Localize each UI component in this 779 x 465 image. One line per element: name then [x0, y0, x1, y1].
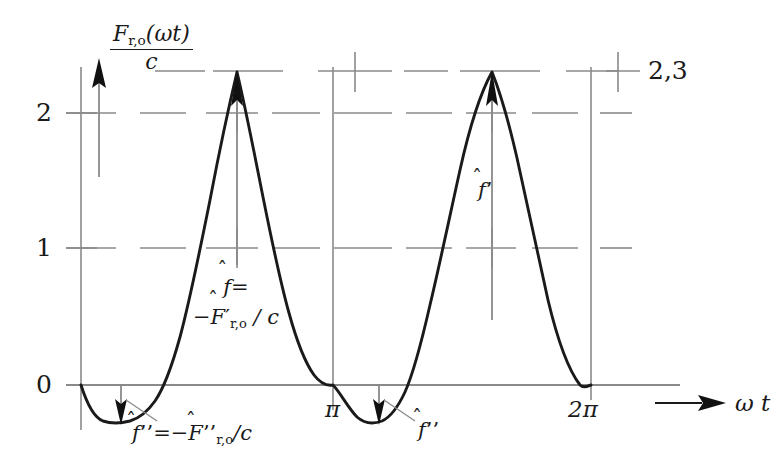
y-axis-title-numerator-arg: (ωt): [146, 21, 190, 46]
annotation-trough-first-equals: =: [153, 421, 171, 445]
x-tick-label-2pi: 2π: [568, 398, 598, 421]
y-axis-title-numerator: F: [113, 21, 128, 46]
annotation-trough-first-Fprimes: ’’: [203, 421, 216, 445]
annotation-trough-first-tail: /c: [233, 421, 252, 445]
y-tick-label-2: 2: [36, 100, 52, 125]
figure-container: Fr,o(ωt) c 2 1 0 2,3 π 2π ω t f̂= −F̂′r,…: [0, 0, 779, 465]
annotation-peak-second-prime: ’: [486, 178, 493, 202]
y-axis-arrow: [92, 58, 106, 177]
trough-arrow-2: [373, 385, 415, 425]
annotation-trough-first-minus: −: [171, 421, 189, 445]
annotation-peak-first: f̂= −F̂′r,o / c: [193, 272, 279, 334]
annotation-peak-first-minus: −: [193, 305, 211, 329]
y-axis-title-denominator: c: [110, 50, 193, 73]
annotation-peak-first-equals: =: [231, 275, 249, 299]
annotation-trough-second: f̂’’: [418, 420, 439, 441]
y-axis-title: Fr,o(ωt) c: [110, 23, 193, 73]
annotation-peak-first-tail: / c: [253, 305, 279, 329]
annotation-peak-second: f̂’: [478, 180, 492, 201]
annotation-trough-second-primes: ’’: [426, 418, 439, 442]
annotation-peak-first-sub: r,o: [230, 317, 247, 332]
y-axis-title-numerator-sub: r,o: [128, 32, 146, 48]
tick-stubs: [237, 52, 492, 268]
x-axis-arrow: [655, 395, 726, 411]
x-axis-title: ω t: [735, 392, 770, 415]
annotation-trough-first-sub: r,o: [216, 432, 233, 447]
annotation-trough-first: f̂’’=−F̂’’r,o/c: [132, 423, 252, 446]
peak-value-label: 2,3: [648, 58, 688, 83]
x-tick-label-pi: π: [325, 398, 340, 421]
annotation-peak-second-fhat: f: [478, 180, 486, 201]
y-tick-label-0: 0: [36, 372, 52, 397]
y-tick-label-1: 1: [36, 235, 52, 260]
annotation-trough-first-fhat: f: [132, 423, 140, 444]
annotation-trough-first-Fhat: F: [188, 423, 203, 444]
annotation-peak-first-fhat: f: [223, 272, 231, 302]
annotation-peak-first-Fhat: F: [211, 302, 226, 332]
annotation-trough-second-fhat: f: [418, 420, 426, 441]
annotation-trough-first-primes: ’’: [140, 421, 153, 445]
